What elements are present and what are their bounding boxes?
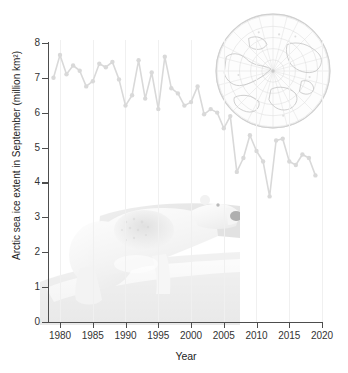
data-point-1989 <box>117 77 121 81</box>
data-point-2007 <box>235 170 239 174</box>
data-point-2017 <box>300 152 304 156</box>
data-point-1988 <box>110 60 114 64</box>
data-point-2000 <box>189 100 193 104</box>
x-tick-1980 <box>60 322 61 328</box>
data-point-2002 <box>202 112 206 116</box>
data-point-1999 <box>182 103 186 107</box>
y-tick-7 <box>42 78 48 79</box>
data-point-1982 <box>71 63 75 67</box>
data-point-2015 <box>287 159 291 163</box>
y-tick-6 <box>42 113 48 114</box>
y-tick-5 <box>42 148 48 149</box>
data-point-1983 <box>78 69 82 73</box>
x-tick-2020 <box>322 322 323 328</box>
data-point-1981 <box>64 72 68 76</box>
data-point-2008 <box>241 156 245 160</box>
x-tick-label-2020: 2020 <box>302 330 342 341</box>
data-point-1987 <box>104 65 108 69</box>
data-point-2016 <box>294 163 298 167</box>
y-tick-0 <box>42 322 48 323</box>
y-tick-label-0: 0 <box>14 317 40 327</box>
y-tick-4 <box>42 182 48 183</box>
data-point-1998 <box>176 91 180 95</box>
data-point-2019 <box>313 173 317 177</box>
x-tick-2010 <box>257 322 258 328</box>
data-point-1986 <box>97 62 101 66</box>
sea-ice-extent-figure: 012345678 198019851990199520002005201020… <box>0 0 348 373</box>
x-tick-2005 <box>224 322 225 328</box>
data-point-1993 <box>143 96 147 100</box>
data-point-1979 <box>51 76 55 80</box>
data-point-1990 <box>123 103 127 107</box>
x-tick-1990 <box>126 322 127 328</box>
data-point-1980 <box>58 53 62 57</box>
data-point-1995 <box>156 107 160 111</box>
data-point-1992 <box>136 58 140 62</box>
y-tick-1 <box>42 287 48 288</box>
data-point-2014 <box>281 137 285 141</box>
x-tick-2000 <box>191 322 192 328</box>
data-point-2013 <box>274 138 278 142</box>
x-axis-title: Year <box>48 350 324 362</box>
x-axis-line <box>48 322 323 323</box>
y-tick-3 <box>42 217 48 218</box>
data-point-1994 <box>150 70 154 74</box>
data-point-2011 <box>261 159 265 163</box>
y-tick-8 <box>42 43 48 44</box>
data-series <box>0 0 348 373</box>
data-point-2004 <box>215 110 219 114</box>
y-axis-line <box>48 42 49 323</box>
data-point-2006 <box>228 114 232 118</box>
data-point-1997 <box>169 86 173 90</box>
y-axis-title: Arctic sea ice extent in September (mill… <box>11 21 22 291</box>
data-point-1985 <box>91 79 95 83</box>
data-point-2005 <box>222 126 226 130</box>
data-point-2001 <box>195 84 199 88</box>
x-tick-1985 <box>93 322 94 328</box>
data-point-1996 <box>163 55 167 59</box>
data-point-2009 <box>248 133 252 137</box>
data-point-2012 <box>267 194 271 198</box>
series-line <box>54 55 316 196</box>
x-tick-1995 <box>158 322 159 328</box>
y-tick-2 <box>42 252 48 253</box>
data-point-2010 <box>254 149 258 153</box>
data-point-1984 <box>84 84 88 88</box>
data-point-1991 <box>130 93 134 97</box>
data-point-2003 <box>209 107 213 111</box>
data-point-2018 <box>307 156 311 160</box>
x-tick-2015 <box>289 322 290 328</box>
